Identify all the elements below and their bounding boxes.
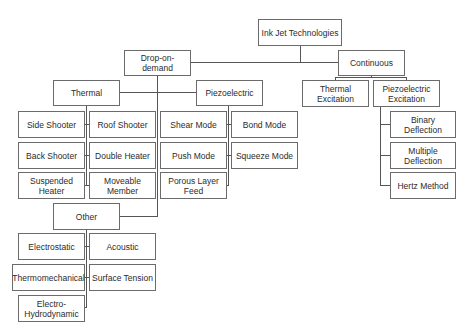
node-hertz-method: Hertz Method — [390, 172, 456, 199]
connector — [86, 229, 87, 308]
node-piezoelectric: Piezoelectric — [196, 80, 263, 106]
node-electro-hydrodynamic: Electro-Hydrodynamic — [18, 295, 85, 322]
node-binary-deflection: Binary Deflection — [390, 111, 456, 138]
node-porous-layer-feed: Porous Layer Feed — [160, 172, 227, 199]
connector — [380, 106, 381, 186]
node-bond-mode: Bond Mode — [231, 111, 298, 138]
node-surface-tension: Surface Tension — [89, 264, 156, 291]
node-shear-mode: Shear Mode — [160, 111, 227, 138]
node-thermomechanical: Thermomechanical — [12, 264, 85, 291]
connector — [120, 216, 158, 217]
node-squeeze-mode: Squeeze Mode — [231, 142, 298, 169]
node-thermal: Thermal — [53, 80, 120, 106]
node-suspended-heater: Suspended Heater — [18, 172, 85, 199]
node-roof-shooter: Roof Shooter — [89, 111, 156, 138]
connector — [86, 105, 87, 185]
node-drop-on-demand: Drop-on-demand — [124, 50, 191, 76]
node-double-heater: Double Heater — [89, 142, 156, 169]
connector — [157, 75, 158, 217]
connector — [380, 155, 390, 156]
node-ink-jet-technologies: Ink Jet Technologies — [258, 19, 342, 46]
node-thermal-excitation: Thermal Excitation — [302, 80, 369, 107]
connector — [228, 105, 229, 185]
connector — [120, 92, 196, 93]
connector — [300, 45, 301, 63]
connector — [380, 124, 390, 125]
node-push-mode: Push Mode — [160, 142, 227, 169]
node-side-shooter: Side Shooter — [18, 111, 85, 138]
node-continuous: Continuous — [338, 50, 405, 76]
connector — [380, 185, 390, 186]
node-multiple-deflection: Multiple Deflection — [390, 142, 456, 169]
node-piezoelectric-excitation: Piezoelectric Excitation — [373, 80, 440, 107]
connector — [190, 62, 338, 63]
node-electrostatic: Electrostatic — [18, 233, 85, 260]
node-back-shooter: Back Shooter — [18, 142, 85, 169]
connector — [335, 77, 407, 78]
node-acoustic: Acoustic — [89, 233, 156, 260]
node-other: Other — [53, 203, 120, 230]
node-moveable-member: Moveable Member — [89, 172, 156, 199]
